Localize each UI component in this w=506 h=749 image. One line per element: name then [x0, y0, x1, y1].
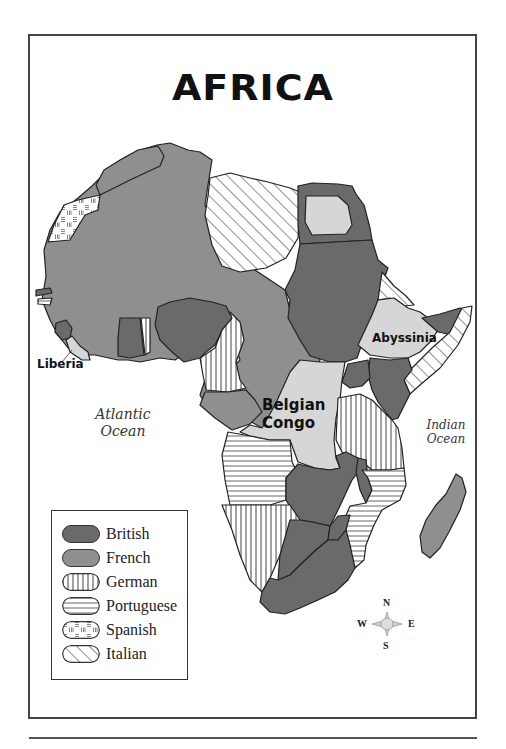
legend-label: Italian — [106, 645, 147, 663]
legend-label: French — [106, 549, 150, 567]
legend-label: German — [106, 573, 158, 591]
atlantic-ocean-label: Atlantic Ocean — [88, 406, 158, 440]
atlantic-line1: Atlantic — [88, 406, 158, 423]
portuguese-swatch-icon — [62, 597, 100, 615]
compass-n: N — [383, 597, 390, 608]
region-gold-coast — [118, 318, 144, 358]
legend-item-french: French — [62, 548, 150, 568]
region-portuguese-guinea — [38, 298, 52, 305]
british-swatch-icon — [62, 525, 100, 543]
spanish-swatch-icon — [62, 621, 100, 639]
legend-label: Spanish — [106, 621, 157, 639]
french-swatch-icon — [62, 549, 100, 567]
label-belgian-congo-1: Belgian — [262, 396, 325, 414]
legend-item-portuguese: Portuguese — [62, 596, 177, 616]
label-belgian-congo-2: Congo — [262, 414, 315, 432]
legend-label: British — [106, 525, 150, 543]
region-egypt-core — [305, 196, 352, 235]
label-abyssinia: Abyssinia — [372, 331, 437, 345]
atlantic-line2: Ocean — [88, 423, 158, 440]
legend-item-german: German — [62, 572, 158, 592]
label-liberia: Liberia — [37, 357, 84, 371]
compass-e: E — [408, 618, 415, 629]
legend-label: Portuguese — [106, 597, 177, 615]
italian-swatch-icon — [62, 645, 100, 663]
compass-w: W — [357, 618, 367, 629]
indian-line1: Indian — [424, 418, 468, 432]
region-madagascar — [420, 474, 466, 558]
region-uganda — [342, 360, 370, 388]
legend: British French German Portuguese Spanish… — [51, 510, 188, 680]
legend-item-spanish: Spanish — [62, 620, 157, 640]
compass-s: S — [383, 640, 389, 651]
region-angola — [222, 432, 296, 505]
legend-item-british: British — [62, 524, 150, 544]
region-libya — [205, 173, 300, 272]
german-swatch-icon — [62, 573, 100, 591]
legend-item-italian: Italian — [62, 644, 147, 664]
compass-icon — [372, 612, 402, 636]
indian-line2: Ocean — [424, 432, 468, 446]
indian-ocean-label: Indian Ocean — [424, 418, 468, 447]
